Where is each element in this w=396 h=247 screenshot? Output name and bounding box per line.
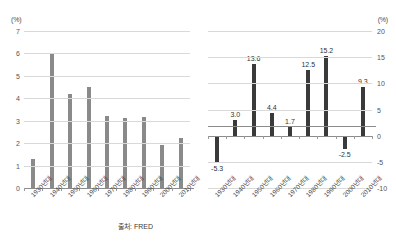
- gridline: [24, 76, 190, 77]
- bar: [215, 136, 219, 164]
- y-axis-tick-label: 5: [16, 72, 20, 79]
- x-axis-tick: [317, 136, 318, 139]
- bar: [233, 120, 237, 136]
- right-chart-unit-label: (%): [378, 16, 388, 23]
- y-axis-tick-label: 4: [16, 95, 20, 102]
- dual-bar-chart-figure: (%) 01234567 1930년대1940년대1950년대1960년대197…: [0, 0, 396, 247]
- bar-slot: [61, 31, 79, 188]
- bar: [324, 56, 328, 136]
- y-axis-tick-label: 7: [16, 28, 20, 35]
- right-chart-plot-area: -5.33.013.64.41.712.515.2-2.59.3 -10-505…: [208, 31, 372, 188]
- bar: [87, 87, 91, 188]
- right-chart-zero-axis-line: [208, 126, 376, 127]
- x-axis-tick: [244, 136, 245, 139]
- y-axis-tick-label: 15: [377, 54, 385, 61]
- bar: [68, 94, 72, 188]
- gridline: [208, 162, 372, 163]
- bar: [361, 87, 365, 136]
- bar-slot: [98, 31, 116, 188]
- bar-value-label: 3.0: [230, 111, 240, 118]
- gridline: [208, 110, 372, 111]
- gridline: [24, 53, 190, 54]
- gridline: [24, 98, 190, 99]
- left-chart-unit-label: (%): [11, 16, 21, 23]
- x-axis-tick: [208, 136, 209, 139]
- gridline: [208, 31, 372, 32]
- gridline: [208, 136, 372, 137]
- bar-slot: [153, 31, 171, 188]
- y-axis-tick-label: 3: [16, 117, 20, 124]
- y-axis-tick-label: 5: [377, 106, 381, 113]
- bar: [31, 159, 35, 188]
- left-chart-plot-area: 01234567: [24, 31, 190, 188]
- left-chart-bars: [24, 31, 190, 188]
- gridline: [24, 121, 190, 122]
- y-axis-tick-label: 2: [16, 140, 20, 147]
- y-axis-tick-label: 0: [377, 132, 381, 139]
- y-axis-tick-label: 1: [16, 162, 20, 169]
- y-axis-tick-label: 6: [16, 50, 20, 57]
- gridline: [24, 143, 190, 144]
- y-axis-tick-label: -5: [377, 158, 383, 165]
- bar-slot: [79, 31, 97, 188]
- bar-value-label: -2.5: [339, 151, 351, 158]
- bar-slot: [116, 31, 134, 188]
- x-axis-tick: [281, 136, 282, 139]
- y-axis-tick-label: 20: [377, 28, 385, 35]
- left-chart-panel: (%) 01234567 1930년대1940년대1950년대1960년대197…: [0, 0, 200, 247]
- gridline: [208, 83, 372, 84]
- x-axis-tick: [336, 136, 337, 139]
- x-axis-tick: [263, 136, 264, 139]
- left-chart-source: 출처: FRED: [118, 221, 153, 231]
- bar-slot: [42, 31, 60, 188]
- right-chart-panel: (%) -5.33.013.64.41.712.515.2-2.59.3 -10…: [200, 0, 396, 247]
- gridline: [24, 166, 190, 167]
- y-axis-tick-label: 10: [377, 80, 385, 87]
- x-axis-tick: [24, 188, 25, 191]
- x-axis-tick: [372, 136, 373, 139]
- gridline: [208, 57, 372, 58]
- bar-slot: [135, 31, 153, 188]
- y-axis-tick-label: -10: [377, 185, 387, 192]
- bar-value-label: 12.5: [301, 61, 315, 68]
- bar-value-label: -5.3: [211, 165, 223, 172]
- bar: [343, 136, 347, 149]
- y-axis-tick-label: 0: [16, 185, 20, 192]
- x-axis-tick: [354, 136, 355, 139]
- bar-value-label: 1.7: [285, 118, 295, 125]
- bar: [288, 127, 292, 136]
- bar-value-label: 15.2: [320, 47, 334, 54]
- x-axis-tick: [299, 136, 300, 139]
- x-axis-tick: [226, 136, 227, 139]
- bar-slot: [24, 31, 42, 188]
- gridline: [24, 31, 190, 32]
- bar: [270, 113, 274, 136]
- bar-slot: [172, 31, 190, 188]
